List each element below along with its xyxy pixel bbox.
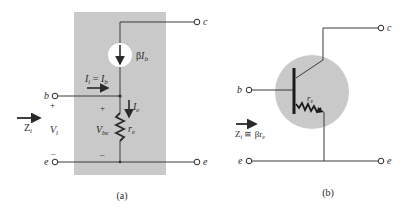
label-e-right-a: e xyxy=(203,156,208,167)
label-zi-eq-b: Zi ≅ βre xyxy=(235,129,265,140)
figure-b: c b re e e Zi ≅ βre (b) xyxy=(235,22,392,199)
caption-b: (b) xyxy=(322,187,334,199)
terminal-c-a[interactable] xyxy=(194,19,200,25)
label-vi: Vi xyxy=(50,124,58,137)
label-b-a: b xyxy=(44,90,49,101)
vbe-minus: – xyxy=(99,149,105,159)
label-e-right-b: e xyxy=(387,155,392,166)
label-c-b: c xyxy=(387,22,392,33)
terminal-b-b[interactable] xyxy=(246,87,252,93)
terminal-b-a[interactable] xyxy=(52,93,58,99)
label-e-left-b: e xyxy=(238,155,243,166)
vi-plus: + xyxy=(50,100,55,110)
label-c-a: c xyxy=(203,16,208,27)
label-b-b: b xyxy=(237,84,242,95)
terminal-e-left-a[interactable] xyxy=(52,159,58,165)
caption-a: (a) xyxy=(116,190,127,202)
terminal-e-left-b[interactable] xyxy=(246,158,252,164)
transistor-circle xyxy=(275,55,349,129)
vi-minus: – xyxy=(50,148,56,158)
terminal-e-right-b[interactable] xyxy=(378,158,384,164)
circuit-svg: c βIb Ii = Ib b Ie re + Vbe – e e xyxy=(0,0,404,213)
terminal-e-right-a[interactable] xyxy=(194,159,200,165)
label-zi-a: Zi xyxy=(24,122,32,135)
vbe-plus: + xyxy=(100,103,105,113)
circuit-figure: c βIb Ii = Ib b Ie re + Vbe – e e xyxy=(0,0,404,213)
label-e-left-a: e xyxy=(44,156,49,167)
figure-a: c βIb Ii = Ib b Ie re + Vbe – e e xyxy=(17,12,208,202)
emitter-node xyxy=(119,161,121,163)
terminal-c-b[interactable] xyxy=(378,25,384,31)
